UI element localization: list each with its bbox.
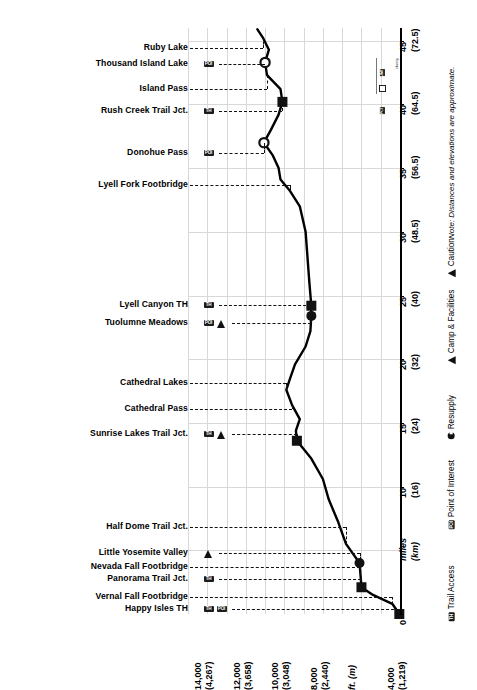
label-sunrise-lakes-trail-jct: Sunrise Lakes Trail Jct. — [0, 428, 188, 439]
distance-tickmark — [400, 104, 404, 105]
distance-tick-miles: 15 — [398, 424, 408, 434]
elevation-tick-ft: 4,000 — [386, 667, 396, 690]
label-text: Vernal Fall Footbridge — [96, 591, 188, 602]
label-text: Lyell Canyon TH — [119, 299, 188, 310]
distance-tick-miles: 45 — [398, 42, 408, 52]
label-cathedral-lakes: Cathedral Lakes — [0, 377, 188, 388]
label-icons-thousand-island-lake: POI — [202, 58, 215, 69]
label-little-yosemite-valley: Little Yosemite Valley — [0, 547, 188, 558]
point-of-interest-icon: POI — [448, 520, 455, 529]
leader-line — [219, 579, 361, 580]
label-half-dome-trail-jct: Half Dome Trail Jct. — [0, 521, 188, 532]
leader-line — [219, 64, 265, 65]
distance-tick-miles: 40 — [398, 105, 408, 115]
legend-item-point-of-interest: POIPoint of Interest — [447, 460, 456, 529]
distance-tick-miles: 20 — [398, 360, 408, 370]
distance-tick-miles: 30 — [398, 233, 408, 243]
leader-line — [219, 553, 360, 554]
label-icons-tuolumne-meadows: POI — [202, 317, 227, 328]
marker-resupply — [260, 58, 269, 67]
distance-tickmark — [400, 614, 404, 615]
trail-access-icon: TH — [204, 431, 214, 437]
camp-icon — [217, 320, 225, 328]
label-text: Island Pass — [140, 83, 188, 94]
label-icons-rush-creek-trail-jct: TH — [202, 105, 215, 116]
distance-tick-miles: 35 — [398, 169, 408, 179]
label-vernal-fall-footbridge: Vernal Fall Footbridge — [0, 591, 188, 602]
elevation-tick-m: (4,267) — [204, 661, 214, 690]
label-icons-lyell-canyon-th: TH — [202, 299, 215, 310]
point-of-interest-icon: POI — [217, 606, 227, 612]
trail-access-icon: TH — [204, 576, 214, 582]
leader-line — [219, 305, 311, 306]
leader-connector — [290, 185, 291, 191]
trail-access-icon: TH — [204, 606, 214, 612]
label-text: Nevada Fall Footbridge — [91, 561, 188, 572]
label-icons-panorama-trail-jct: TH — [202, 573, 215, 584]
legend-item-camp-facilities: Camp & Facilities — [447, 290, 456, 365]
leader-line — [219, 111, 282, 112]
elevation-tick-ft: ft. (m) — [347, 665, 357, 690]
elevation-tick-ft: 10,000 — [270, 662, 280, 690]
trail-access-icon: TH — [204, 302, 214, 308]
label-rush-creek-trail-jct: Rush Creek Trail Jct. — [0, 105, 188, 116]
label-text: Tuolumne Meadows — [105, 317, 188, 328]
distance-tickmark — [400, 423, 404, 424]
label-icons-sunrise-lakes-trail-jct: TH — [202, 428, 227, 439]
legend-label: Caution — [447, 238, 456, 266]
distance-tick-km: (48.5) — [410, 219, 420, 243]
trail-access-icon: TH — [448, 612, 455, 621]
label-happy-isles-th: Happy Isles TH — [0, 603, 188, 614]
leader-connector — [361, 579, 362, 587]
leader-line — [219, 153, 264, 154]
distance-tick-km: (16) — [410, 482, 420, 498]
distance-tickmark — [400, 41, 404, 42]
leader-line — [190, 567, 360, 568]
route-sharing-caption: sharing — [396, 58, 399, 69]
legend-label: Trail Access — [447, 566, 456, 610]
distance-tick-km: (40) — [410, 291, 420, 307]
leader-connector — [286, 383, 287, 390]
leader-connector — [311, 316, 312, 323]
label-text: Thousand Island Lake — [96, 58, 188, 69]
leader-line — [190, 409, 292, 410]
distance-tick-miles: miles — [398, 538, 408, 561]
distance-tick-km: (56.5) — [410, 156, 420, 180]
elevation-tick-ft: 8,000 — [309, 667, 319, 690]
label-donohue-pass: Donohue Pass — [0, 147, 188, 158]
camp-icon — [204, 550, 212, 558]
legend-item-caution: Caution — [447, 238, 456, 277]
elevation-tick-ft: 12,000 — [232, 662, 242, 690]
leader-connector — [297, 434, 298, 441]
leader-line — [190, 185, 290, 186]
legend-item-resupply: Resupply — [447, 395, 456, 439]
label-panorama-trail-jct: Panorama Trail Jct. — [0, 573, 188, 584]
label-lyell-canyon-th: Lyell Canyon TH — [0, 299, 188, 310]
leader-line — [190, 48, 263, 49]
label-lyell-fork-footbridge: Lyell Fork Footbridge — [0, 179, 188, 190]
label-text: Sunrise Lakes Trail Jct. — [90, 428, 188, 439]
distance-tick-miles: 10 — [398, 488, 408, 498]
distance-tickmark — [400, 359, 404, 360]
distance-tick-miles: 25 — [398, 297, 408, 307]
elevation-tick-m: (3,658) — [243, 661, 253, 690]
legend-label: Resupply — [447, 395, 456, 429]
label-island-pass: Island Pass — [0, 83, 188, 94]
camp-icon — [448, 356, 456, 364]
label-text: Little Yosemite Valley — [99, 547, 188, 558]
chart-note: Note: Distances and elevations are appro… — [447, 66, 456, 239]
leader-line — [190, 597, 392, 598]
label-icons-donohue-pass: POI — [202, 147, 215, 158]
leader-line — [232, 609, 399, 610]
point-of-interest-icon: POI — [204, 150, 214, 156]
trail-access-icon: TH — [204, 108, 214, 114]
elevation-tick-ft: 14,000 — [193, 662, 203, 690]
leader-connector — [267, 75, 268, 89]
route-open-square — [379, 85, 386, 92]
legend-label: Camp & Facilities — [447, 290, 456, 354]
legend-item-trail-access: THTrail Access — [447, 566, 456, 622]
leader-line — [190, 383, 286, 384]
label-text: Half Dome Trail Jct. — [106, 521, 188, 532]
label-icons-little-yosemite-valley — [202, 547, 214, 558]
label-nevada-fall-footbridge: Nevada Fall Footbridge — [0, 561, 188, 572]
